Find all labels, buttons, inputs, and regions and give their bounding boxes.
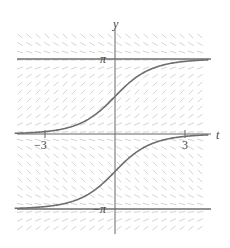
slope-segment xyxy=(116,67,122,69)
slope-segment xyxy=(26,123,32,125)
slope-segment xyxy=(80,132,86,133)
slope-segment xyxy=(161,67,167,69)
slope-segment xyxy=(180,162,185,166)
slope-segment xyxy=(161,203,167,204)
y-tick-label-pi: π xyxy=(100,53,106,65)
slope-segment xyxy=(72,82,77,86)
slope-segment xyxy=(80,42,85,45)
slope-segment xyxy=(189,162,194,166)
slope-segment xyxy=(144,170,148,175)
slope-segment xyxy=(89,67,95,69)
slope-segment xyxy=(35,42,40,45)
slope-segment xyxy=(53,186,58,190)
slope-segment xyxy=(152,203,158,204)
slope-segment xyxy=(197,114,202,118)
slope-segment xyxy=(126,90,131,95)
slope-segment xyxy=(134,212,140,213)
slope-segment xyxy=(162,170,166,175)
slope-segment xyxy=(135,154,140,158)
slope-segment xyxy=(179,203,185,204)
slope-segment xyxy=(144,162,149,166)
slope-segment xyxy=(197,212,203,213)
slope-segment xyxy=(134,139,140,141)
slope-segment xyxy=(72,178,77,182)
slope-segment xyxy=(125,219,131,222)
slope-segment xyxy=(63,170,67,175)
slope-segment xyxy=(144,154,149,158)
slope-segment xyxy=(116,203,122,204)
slope-segment xyxy=(35,67,41,69)
slope-segment xyxy=(170,114,175,118)
slope-segment xyxy=(108,106,113,110)
slope-segment xyxy=(134,226,139,230)
slope-segment xyxy=(108,82,113,86)
slope-segment xyxy=(27,170,31,175)
slope-segment xyxy=(107,226,112,230)
slope-segment xyxy=(81,98,85,103)
slope-segment xyxy=(35,219,41,222)
slope-segment xyxy=(198,154,203,158)
slope-segment xyxy=(63,98,67,103)
slope-segment xyxy=(63,154,68,158)
slope-segment xyxy=(152,186,157,190)
slope-segment xyxy=(170,51,176,53)
slope-segment xyxy=(125,51,131,53)
slope-segment xyxy=(53,219,59,222)
slope-segment xyxy=(197,74,202,78)
slope-segment xyxy=(170,226,175,230)
slope-segment xyxy=(197,139,203,141)
slope-segment xyxy=(188,226,193,230)
slope-segment xyxy=(152,123,158,125)
slope-segment xyxy=(71,186,76,190)
slope-segment xyxy=(152,139,158,141)
slope-segment xyxy=(197,146,203,149)
slope-segment xyxy=(81,82,86,86)
slope-segment xyxy=(27,178,32,182)
slope-segment xyxy=(80,67,86,69)
slope-segment xyxy=(144,98,148,103)
slope-segment xyxy=(45,154,50,158)
slope-segment xyxy=(53,132,59,133)
slope-segment xyxy=(81,178,86,182)
slope-segment xyxy=(80,212,86,213)
slope-segment xyxy=(134,51,140,53)
slope-segment xyxy=(116,123,122,125)
solution-curve xyxy=(15,60,209,133)
slope-segment xyxy=(44,67,50,69)
slope-segment xyxy=(44,203,50,204)
slope-segment xyxy=(36,82,41,86)
slope-segment xyxy=(188,186,193,190)
slope-segment xyxy=(107,212,113,213)
slope-segment xyxy=(107,51,113,53)
slope-segment xyxy=(62,226,67,230)
slope-segment xyxy=(152,114,157,118)
slope-segment xyxy=(170,219,176,222)
slope-segment xyxy=(134,195,140,198)
slope-segment xyxy=(188,42,193,45)
slope-segment xyxy=(99,154,104,158)
slope-segment xyxy=(63,82,68,86)
slope-segment xyxy=(170,132,176,133)
slope-segment xyxy=(198,34,203,38)
slope-segment xyxy=(143,42,148,45)
slope-segment xyxy=(134,186,139,190)
slope-segment xyxy=(171,162,176,166)
slope-segment xyxy=(116,74,121,78)
slope-segment xyxy=(17,186,22,190)
slope-segment xyxy=(98,139,104,141)
slope-segment xyxy=(45,178,50,182)
slope-segment xyxy=(143,123,149,125)
slope-segment xyxy=(63,178,68,182)
slope-segment xyxy=(197,123,203,125)
slope-segment xyxy=(161,195,167,198)
slope-segment xyxy=(189,170,193,175)
slope-segment xyxy=(18,154,23,158)
slope-segment xyxy=(72,98,76,103)
slope-segment xyxy=(107,195,113,198)
slope-segment xyxy=(125,114,130,118)
slope-segment xyxy=(135,34,140,38)
slope-segment xyxy=(26,42,31,45)
slope-segment xyxy=(152,132,158,133)
slope-segment xyxy=(162,162,167,166)
slope-segment xyxy=(89,195,95,198)
